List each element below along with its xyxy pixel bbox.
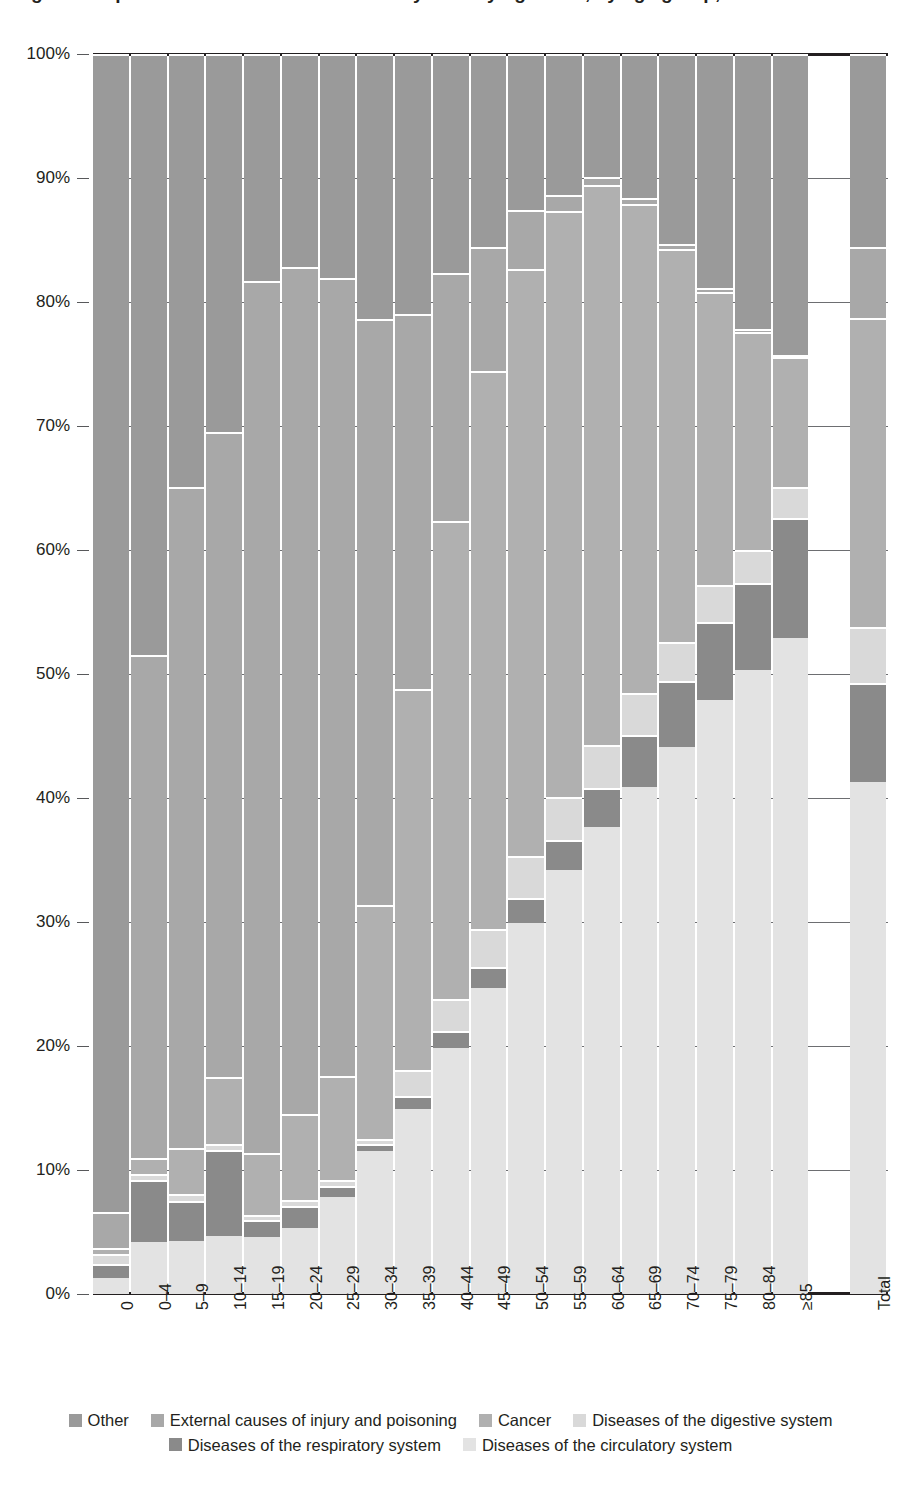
bar-segment-external-causes-of-injury-and-poisoning[interactable] (697, 288, 733, 292)
bar-segment-diseases-of-the-respiratory-system[interactable] (471, 967, 507, 988)
bar-segment-diseases-of-the-digestive-system[interactable] (697, 585, 733, 622)
bar-segment-other[interactable] (93, 54, 129, 1212)
bar-segment-external-causes-of-injury-and-poisoning[interactable] (395, 314, 431, 688)
bar-age-55–59[interactable] (546, 54, 582, 1294)
bar-age-10–14[interactable] (206, 54, 242, 1294)
bar-segment-diseases-of-the-digestive-system[interactable] (395, 1070, 431, 1096)
bar-age-75–79[interactable] (697, 54, 733, 1294)
bar-segment-cancer[interactable] (508, 269, 544, 857)
bar-segment-diseases-of-the-digestive-system[interactable] (584, 745, 620, 788)
bar-segment-diseases-of-the-digestive-system[interactable] (508, 856, 544, 898)
bar-segment-external-causes-of-injury-and-poisoning[interactable] (850, 247, 886, 318)
bar-segment-cancer[interactable] (320, 1076, 356, 1180)
bar-segment-diseases-of-the-respiratory-system[interactable] (206, 1150, 242, 1236)
bar-segment-other[interactable] (508, 54, 544, 210)
bar-segment-external-causes-of-injury-and-poisoning[interactable] (773, 355, 809, 356)
bar-segment-cancer[interactable] (622, 204, 658, 693)
bar-age-35–39[interactable] (395, 54, 431, 1294)
bar-segment-other[interactable] (433, 54, 469, 273)
bar-segment-diseases-of-the-digestive-system[interactable] (433, 999, 469, 1031)
bar-segment-external-causes-of-injury-and-poisoning[interactable] (471, 247, 507, 371)
bar-segment-diseases-of-the-respiratory-system[interactable] (244, 1220, 280, 1237)
bar-segment-diseases-of-the-digestive-system[interactable] (850, 627, 886, 683)
bar-segment-other[interactable] (131, 54, 167, 655)
bar-segment-other[interactable] (546, 54, 582, 195)
bar-segment-external-causes-of-injury-and-poisoning[interactable] (433, 273, 469, 521)
bar-segment-diseases-of-the-respiratory-system[interactable] (546, 840, 582, 870)
bar-segment-diseases-of-the-digestive-system[interactable] (735, 550, 771, 583)
bar-segment-diseases-of-the-digestive-system[interactable] (282, 1200, 318, 1206)
bar-segment-diseases-of-the-respiratory-system[interactable] (697, 622, 733, 700)
bar-age-5–9[interactable] (169, 54, 205, 1294)
bar-segment-diseases-of-the-respiratory-system[interactable] (735, 583, 771, 670)
bar-segment-external-causes-of-injury-and-poisoning[interactable] (169, 487, 205, 1148)
bar-segment-diseases-of-the-circulatory-system[interactable] (735, 670, 771, 1294)
bar-age-0–4[interactable] (131, 54, 167, 1294)
bar-age-45–49[interactable] (471, 54, 507, 1294)
bar-age-25–29[interactable] (320, 54, 356, 1294)
bar-segment-cancer[interactable] (697, 292, 733, 585)
bar-age-65–69[interactable] (622, 54, 658, 1294)
bar-segment-diseases-of-the-respiratory-system[interactable] (850, 683, 886, 782)
bar-segment-diseases-of-the-circulatory-system[interactable] (93, 1278, 129, 1294)
bar-age-20–24[interactable] (282, 54, 318, 1294)
bar-segment-other[interactable] (584, 54, 620, 177)
bar-segment-other[interactable] (282, 54, 318, 267)
bar-age-50–54[interactable] (508, 54, 544, 1294)
bar-segment-external-causes-of-injury-and-poisoning[interactable] (508, 210, 544, 268)
bar-segment-cancer[interactable] (850, 318, 886, 627)
bar-segment-diseases-of-the-respiratory-system[interactable] (508, 898, 544, 923)
bar-age-0[interactable] (93, 54, 129, 1294)
bar-segment-other[interactable] (244, 54, 280, 281)
bar-segment-external-causes-of-injury-and-poisoning[interactable] (93, 1212, 129, 1248)
bar-segment-diseases-of-the-circulatory-system[interactable] (622, 787, 658, 1294)
bar-segment-diseases-of-the-respiratory-system[interactable] (93, 1264, 129, 1278)
bar-segment-diseases-of-the-respiratory-system[interactable] (659, 681, 695, 747)
bar-segment-other[interactable] (697, 54, 733, 288)
bar-segment-diseases-of-the-digestive-system[interactable] (131, 1174, 167, 1180)
legend-item-external-causes-of-injury-and-poisoning[interactable]: External causes of injury and poisoning (151, 1412, 457, 1429)
bar-segment-diseases-of-the-digestive-system[interactable] (244, 1215, 280, 1220)
bar-segment-other[interactable] (735, 54, 771, 329)
bar-segment-diseases-of-the-digestive-system[interactable] (471, 929, 507, 966)
bar-segment-other[interactable] (773, 54, 809, 355)
bar-segment-cancer[interactable] (357, 905, 393, 1139)
bar-segment-cancer[interactable] (659, 249, 695, 642)
bar-age-60–64[interactable] (584, 54, 620, 1294)
legend-item-cancer[interactable]: Cancer (479, 1412, 551, 1429)
bar-segment-cancer[interactable] (584, 185, 620, 744)
bar-segment-diseases-of-the-respiratory-system[interactable] (357, 1144, 393, 1151)
bar-segment-other[interactable] (357, 54, 393, 319)
bar-segment-diseases-of-the-circulatory-system[interactable] (584, 827, 620, 1294)
bar-segment-cancer[interactable] (206, 1077, 242, 1144)
bar-segment-diseases-of-the-digestive-system[interactable] (320, 1180, 356, 1186)
bar-segment-diseases-of-the-digestive-system[interactable] (93, 1254, 129, 1264)
bar-segment-external-causes-of-injury-and-poisoning[interactable] (282, 267, 318, 1114)
bar-segment-external-causes-of-injury-and-poisoning[interactable] (320, 278, 356, 1075)
bar-segment-cancer[interactable] (773, 357, 809, 487)
legend-item-other[interactable]: Other (69, 1412, 129, 1429)
bar-segment-other[interactable] (206, 54, 242, 432)
bar-age-40–44[interactable] (433, 54, 469, 1294)
bar-segment-other[interactable] (471, 54, 507, 247)
bar-segment-diseases-of-the-digestive-system[interactable] (546, 797, 582, 840)
bar-segment-external-causes-of-injury-and-poisoning[interactable] (584, 177, 620, 186)
legend-item-diseases-of-the-respiratory-system[interactable]: Diseases of the respiratory system (169, 1437, 441, 1454)
bar-segment-other[interactable] (395, 54, 431, 314)
bar-segment-cancer[interactable] (395, 689, 431, 1070)
bar-segment-external-causes-of-injury-and-poisoning[interactable] (244, 281, 280, 1153)
bar-segment-cancer[interactable] (93, 1248, 129, 1254)
bar-segment-diseases-of-the-circulatory-system[interactable] (659, 747, 695, 1294)
bar-age-30–34[interactable] (357, 54, 393, 1294)
bar-segment-cancer[interactable] (546, 211, 582, 796)
bar-segment-diseases-of-the-digestive-system[interactable] (622, 693, 658, 735)
legend-item-diseases-of-the-digestive-system[interactable]: Diseases of the digestive system (573, 1412, 832, 1429)
bar-age-80–84[interactable] (735, 54, 771, 1294)
bar-segment-diseases-of-the-circulatory-system[interactable] (546, 870, 582, 1294)
bar-segment-diseases-of-the-circulatory-system[interactable] (433, 1048, 469, 1294)
bar-age-70–74[interactable] (659, 54, 695, 1294)
bar-segment-diseases-of-the-circulatory-system[interactable] (508, 923, 544, 1294)
bar-segment-diseases-of-the-respiratory-system[interactable] (395, 1096, 431, 1110)
bar-segment-diseases-of-the-respiratory-system[interactable] (773, 518, 809, 638)
legend-item-diseases-of-the-circulatory-system[interactable]: Diseases of the circulatory system (463, 1437, 732, 1454)
